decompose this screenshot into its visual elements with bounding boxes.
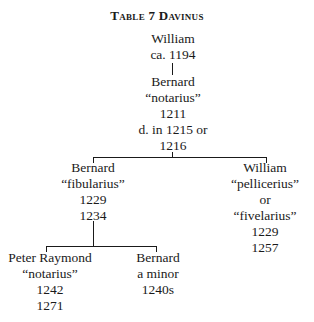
node-bernard-minor: Bernard a minor 1240s	[130, 250, 186, 298]
node-epithet: “notarius”	[123, 90, 223, 106]
connector-vertical	[93, 221, 94, 247]
node-death: d. in 1215 or	[123, 122, 223, 138]
node-date: ca. 1194	[123, 47, 223, 63]
connector-horizontal	[93, 157, 267, 158]
table-title: Table 7 Davinus	[0, 8, 314, 24]
node-conjunction: or	[215, 192, 314, 208]
node-peter-raymond: Peter Raymond “notarius” 1242 1271	[0, 250, 100, 314]
node-bernard-notarius: Bernard “notarius” 1211 d. in 1215 or 12…	[123, 74, 223, 154]
node-william-pellicerius: William “pellicerius” or “fivelarius” 12…	[215, 160, 314, 256]
node-epithet-alt: “fivelarius”	[215, 208, 314, 224]
node-date: 1211	[123, 106, 223, 122]
node-date: 1240s	[130, 282, 186, 298]
node-william-root: William ca. 1194	[123, 31, 223, 63]
node-name: Bernard	[43, 160, 143, 176]
node-death-year: 1216	[123, 138, 223, 154]
node-date: 1242	[0, 282, 100, 298]
node-name: Bernard	[130, 250, 186, 266]
node-name: William	[123, 31, 223, 47]
node-date: 1257	[215, 240, 314, 256]
node-date: 1271	[0, 298, 100, 314]
node-date: 1229	[215, 224, 314, 240]
node-status: a minor	[130, 266, 186, 282]
connector-horizontal	[46, 246, 157, 247]
node-date: 1229	[43, 192, 143, 208]
node-epithet: “notarius”	[0, 266, 100, 282]
node-name: Bernard	[123, 74, 223, 90]
node-epithet: “pellicerius”	[215, 176, 314, 192]
node-name: Peter Raymond	[0, 250, 100, 266]
node-epithet: “fibularius”	[43, 176, 143, 192]
node-name: William	[215, 160, 314, 176]
node-bernard-fibularius: Bernard “fibularius” 1229 1234	[43, 160, 143, 224]
